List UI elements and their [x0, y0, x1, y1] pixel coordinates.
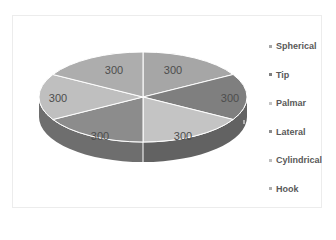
legend-item-palmar[interactable]: Palmar [269, 89, 322, 118]
legend-label: Tip [276, 70, 289, 80]
legend-marker [269, 159, 272, 162]
legend-label: Spherical [276, 41, 317, 51]
label-hook: 300 [105, 64, 123, 76]
label-spherical: 300 [164, 64, 182, 76]
pie-top [39, 52, 247, 142]
legend-label: Cylindrical [276, 155, 322, 165]
legend-marker [269, 73, 272, 76]
legend-marker [269, 102, 272, 105]
legend-label: Palmar [276, 98, 306, 108]
legend-label: Lateral [276, 127, 306, 137]
legend-marker [269, 45, 272, 48]
legend: Spherical Tip Palmar Lateral Cylindrical… [269, 32, 322, 203]
legend-item-spherical[interactable]: Spherical [269, 32, 322, 61]
legend-item-lateral[interactable]: Lateral [269, 118, 322, 147]
legend-item-hook[interactable]: Hook [269, 175, 322, 204]
label-cylindrical: 300 [49, 92, 67, 104]
label-palmar: 300 [174, 130, 192, 142]
legend-item-cylindrical[interactable]: Cylindrical [269, 146, 322, 175]
label-lateral: 300 [91, 130, 109, 142]
legend-marker [269, 187, 272, 190]
label-tip: 300 [221, 92, 239, 104]
legend-label: Hook [276, 184, 299, 194]
legend-item-tip[interactable]: Tip [269, 61, 322, 90]
legend-marker [269, 130, 272, 133]
